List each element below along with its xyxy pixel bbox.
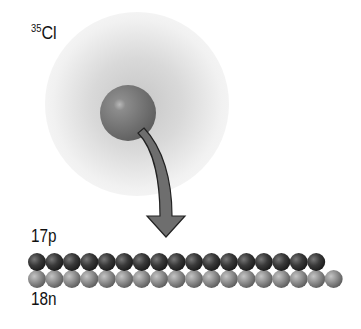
proton-ball <box>115 253 133 271</box>
proton-ball <box>203 253 221 271</box>
neutron-ball <box>272 270 290 288</box>
neutron-ball <box>255 270 273 288</box>
proton-ball <box>150 253 168 271</box>
proton-ball <box>237 253 255 271</box>
neutron-ball <box>133 270 151 288</box>
neutron-ball <box>185 270 203 288</box>
neutron-ball <box>325 270 343 288</box>
neutron-count-label: 18n <box>31 289 57 310</box>
neutron-ball <box>45 270 63 288</box>
neutron-ball <box>203 270 221 288</box>
neutron-ball <box>220 270 238 288</box>
diagram-canvas <box>0 0 361 329</box>
neutron-ball <box>28 270 46 288</box>
neutron-ball <box>115 270 133 288</box>
neutron-ball <box>150 270 168 288</box>
neutron-row <box>28 270 343 288</box>
neutron-ball <box>63 270 81 288</box>
neutron-ball <box>290 270 308 288</box>
proton-ball <box>290 253 308 271</box>
proton-ball <box>307 253 325 271</box>
proton-ball <box>45 253 63 271</box>
neutron-ball <box>168 270 186 288</box>
proton-row <box>28 253 325 271</box>
proton-ball <box>255 253 273 271</box>
proton-ball <box>63 253 81 271</box>
proton-ball <box>133 253 151 271</box>
arrow-icon <box>138 128 185 237</box>
neutron-ball <box>98 270 116 288</box>
proton-ball <box>28 253 46 271</box>
neutron-ball <box>307 270 325 288</box>
proton-ball <box>272 253 290 271</box>
proton-count-label: 17p <box>31 226 57 247</box>
proton-ball <box>168 253 186 271</box>
proton-ball <box>220 253 238 271</box>
proton-ball <box>98 253 116 271</box>
proton-ball <box>185 253 203 271</box>
proton-ball <box>80 253 98 271</box>
neutron-ball <box>80 270 98 288</box>
neutron-ball <box>237 270 255 288</box>
